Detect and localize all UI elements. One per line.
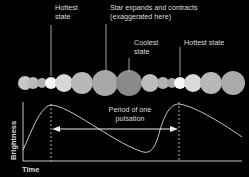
label-hottest-right: Hottest state bbox=[184, 38, 224, 47]
label-coolest: Cooleststate bbox=[134, 38, 158, 56]
star-state-4 bbox=[55, 74, 73, 92]
star-sequence bbox=[18, 70, 245, 96]
star-state-5 bbox=[71, 72, 93, 94]
star-state-12 bbox=[184, 74, 202, 92]
label-period: Period of onepulsation bbox=[104, 105, 156, 123]
period-arrow-right-head bbox=[170, 126, 178, 132]
star-state-8 bbox=[141, 74, 159, 92]
star-state-13 bbox=[200, 72, 222, 94]
x-axis-label: Time bbox=[22, 165, 39, 174]
pulsating-star-diagram bbox=[0, 0, 249, 177]
y-axis-label: Brightness bbox=[9, 121, 18, 160]
star-state-7 bbox=[116, 70, 142, 96]
star-state-14 bbox=[221, 71, 245, 95]
star-state-6 bbox=[92, 70, 118, 96]
label-expands: Star expands and contracts(exaggerated h… bbox=[110, 3, 198, 21]
period-arrow-left-head bbox=[52, 126, 60, 132]
label-hottest-left: Hotteststate bbox=[55, 3, 78, 21]
